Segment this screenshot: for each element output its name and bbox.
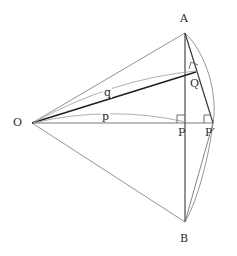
right-angle-at-Q <box>189 62 198 69</box>
vertex-label-B: B <box>180 233 188 244</box>
arc-label-p: p <box>101 111 110 122</box>
vertex-label-O: O <box>13 117 22 128</box>
vertex-label-P-prime: P′ <box>205 127 215 138</box>
segment-O-B <box>32 123 185 222</box>
segment-O-Q <box>32 72 196 123</box>
vertex-label-A: A <box>180 13 188 24</box>
right-angle-at-P-prime <box>204 115 211 123</box>
vertex-label-Q: Q <box>190 78 199 89</box>
vertex-label-P: P <box>178 127 185 138</box>
arc-label-q: q <box>103 87 112 98</box>
geometry-canvas <box>0 0 237 256</box>
geometry-figure: A B O P P′ Q q p <box>0 0 237 256</box>
